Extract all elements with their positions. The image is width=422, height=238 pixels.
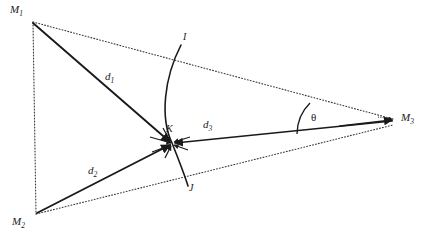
- distance-label-d2-sub: 2: [94, 170, 98, 179]
- vertex-label-m2-text: M: [12, 215, 21, 227]
- distance-label-d1: d1: [105, 71, 114, 85]
- vertex-label-m2-sub: 2: [21, 221, 25, 230]
- vector-d2: [37, 145, 170, 213]
- vertex-label-m2: M2: [12, 216, 25, 230]
- vertex-label-m3-text: M: [401, 111, 410, 123]
- distance-label-d3-sub: 3: [209, 124, 213, 133]
- vertex-label-m3-sub: 3: [410, 117, 414, 126]
- edge-m1-m2: [33, 22, 36, 214]
- vector-d3-head-m3: [340, 120, 392, 126]
- vertex-label-m3: M3: [401, 112, 414, 126]
- distance-label-d3: d3: [203, 119, 212, 133]
- arc-label-j: J: [189, 183, 193, 193]
- vertex-label-m1-sub: 1: [19, 9, 23, 18]
- vertex-label-m1: M1: [10, 4, 23, 18]
- distance-label-d2: d2: [88, 165, 97, 179]
- vertex-label-m1-text: M: [10, 3, 19, 15]
- distance-label-d1-sub: 1: [111, 76, 115, 85]
- vector-d1: [33, 23, 170, 142]
- k-cluster-stroke-4: [174, 145, 188, 150]
- arc-i-j: [165, 45, 188, 186]
- diagram-canvas: M1 M2 M3 d1 d2 d3 K I J θ: [0, 0, 422, 238]
- angle-label-theta: θ: [311, 112, 316, 123]
- arc-label-i: I: [183, 32, 186, 42]
- point-label-k: K: [166, 124, 173, 134]
